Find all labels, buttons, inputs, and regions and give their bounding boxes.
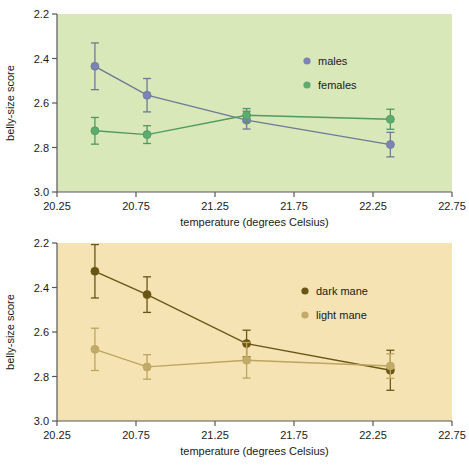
- y-axis-tick-label: 2.2: [34, 237, 49, 249]
- y-axis-tick-label: 3.0: [34, 415, 49, 427]
- y-axis-tick-label: 2.6: [34, 97, 49, 109]
- x-axis-title: temperature (degrees Celsius): [180, 445, 329, 457]
- y-axis-tick-label: 2.8: [34, 371, 49, 383]
- data-point-females: [143, 131, 151, 139]
- chart-svg-bottom: 2.22.42.62.83.020.2520.7521.2521.7522.25…: [0, 232, 469, 465]
- y-axis-tick-label: 2.6: [34, 326, 49, 338]
- y-axis-tick-label: 3.0: [34, 186, 49, 198]
- chart-panel-bottom: 2.22.42.62.83.020.2520.7521.2521.7522.25…: [0, 232, 469, 465]
- x-axis-tick-label: 22.25: [359, 429, 387, 441]
- legend-label-light-mane: light mane: [316, 309, 367, 321]
- data-point-light-mane: [91, 345, 99, 353]
- legend-marker-light-mane: [301, 311, 308, 318]
- legend-marker-dark-mane: [301, 287, 308, 294]
- data-point-light-mane: [143, 363, 151, 371]
- legend-label-males: males: [318, 55, 348, 67]
- data-point-females: [243, 111, 251, 119]
- data-point-dark-mane: [91, 267, 99, 275]
- x-axis-tick-label: 21.75: [280, 429, 308, 441]
- x-axis-title: temperature (degrees Celsius): [180, 216, 329, 228]
- x-axis-tick-label: 22.75: [438, 200, 466, 212]
- data-point-dark-mane: [143, 291, 151, 299]
- y-axis-title: belly-size score: [4, 65, 16, 141]
- x-axis-tick-label: 22.75: [438, 429, 466, 441]
- y-axis-title: belly-size score: [4, 294, 16, 370]
- legend-marker-females: [303, 81, 310, 88]
- data-point-females: [386, 115, 394, 123]
- y-axis-tick-label: 2.4: [34, 53, 49, 65]
- x-axis-tick-label: 22.25: [359, 200, 387, 212]
- x-axis-tick-label: 21.25: [201, 429, 229, 441]
- data-point-females: [91, 127, 99, 135]
- legend-label-females: females: [318, 79, 357, 91]
- data-point-males: [91, 62, 99, 70]
- data-point-males: [386, 141, 394, 149]
- legend-label-dark-mane: dark mane: [316, 285, 368, 297]
- y-axis-tick-label: 2.2: [34, 8, 49, 20]
- x-axis-tick-label: 21.75: [280, 200, 308, 212]
- x-axis-tick-label: 20.75: [122, 200, 150, 212]
- chart-svg-top: 2.22.42.62.83.020.2520.7521.2521.7522.25…: [0, 0, 469, 232]
- y-axis-tick-label: 2.8: [34, 142, 49, 154]
- data-point-light-mane: [243, 356, 251, 364]
- x-axis-tick-label: 20.25: [43, 429, 71, 441]
- legend-marker-males: [303, 57, 310, 64]
- x-axis-tick-label: 20.25: [43, 200, 71, 212]
- data-point-males: [143, 91, 151, 99]
- data-point-light-mane: [386, 362, 394, 370]
- plot-area-background: [57, 14, 452, 192]
- y-axis-tick-label: 2.4: [34, 282, 49, 294]
- x-axis-tick-label: 20.75: [122, 429, 150, 441]
- chart-panel-top: 2.22.42.62.83.020.2520.7521.2521.7522.25…: [0, 0, 469, 232]
- x-axis-tick-label: 21.25: [201, 200, 229, 212]
- plot-area-background: [57, 243, 452, 421]
- figure-two-panel-line-charts: 2.22.42.62.83.020.2520.7521.2521.7522.25…: [0, 0, 469, 465]
